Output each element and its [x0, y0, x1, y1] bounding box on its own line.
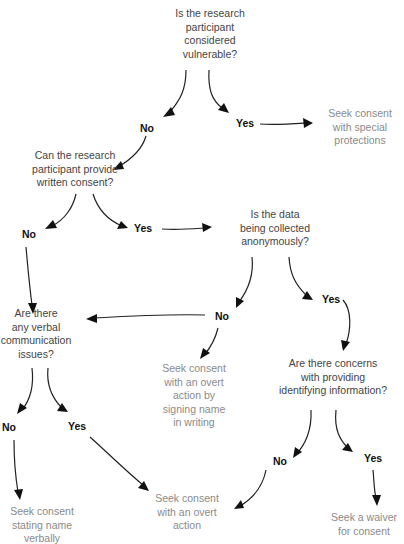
question-line: Is the data	[215, 208, 335, 222]
label-q5-yes: Yes	[364, 452, 382, 464]
outcome-line: Seek a waiver	[322, 511, 404, 525]
question-line: participant provide	[15, 163, 135, 177]
connector-arrows	[0, 0, 404, 544]
question-line: Are there	[0, 307, 72, 321]
outcome-line: signing name	[149, 403, 239, 417]
question-identifying-info: Are there concerns with providing identi…	[263, 357, 403, 398]
label-q3-yes: Yes	[322, 293, 340, 305]
label-q1-yes: Yes	[236, 117, 254, 129]
question-anonymous: Is the data being collected anonymously?	[215, 208, 335, 249]
label-q1-no: No	[140, 122, 154, 134]
question-line: Can the research	[15, 149, 135, 163]
outcome-waiver: Seek a waiver for consent	[322, 511, 404, 538]
question-line: with providing	[263, 371, 403, 385]
outcome-overt-action: Seek consent with an overt action	[145, 492, 229, 533]
question-line: being collected	[215, 222, 335, 236]
outcome-line: Seek consent	[0, 505, 84, 519]
question-written-consent: Can the research participant provide wri…	[15, 149, 135, 190]
label-q4-yes: Yes	[68, 420, 86, 432]
outcome-line: with an overt	[149, 376, 239, 390]
question-line: any verbal	[0, 321, 72, 335]
question-line: Are there concerns	[263, 357, 403, 371]
question-line: vulnerable?	[150, 48, 270, 62]
outcome-line: with an overt	[145, 506, 229, 520]
outcome-line: verbally	[0, 532, 84, 544]
outcome-stating-name-verbally: Seek consent stating name verbally	[0, 505, 84, 544]
question-line: considered	[150, 34, 270, 48]
label-q2-yes: Yes	[134, 222, 152, 234]
question-line: communication	[0, 334, 72, 348]
label-q3-no: No	[215, 310, 229, 322]
question-line: Is the research	[150, 7, 270, 21]
outcome-line: Seek consent	[145, 492, 229, 506]
outcome-line: Seek consent	[149, 362, 239, 376]
question-line: identifying information?	[263, 384, 403, 398]
outcome-special-protections: Seek consent with special protections	[315, 107, 404, 148]
outcome-line: action by	[149, 389, 239, 403]
outcome-line: with special	[315, 121, 404, 135]
outcome-line: for consent	[322, 525, 404, 539]
outcome-signing-name: Seek consent with an overt action by sig…	[149, 362, 239, 430]
question-verbal-issues: Are there any verbal communication issue…	[0, 307, 72, 361]
question-line: participant	[150, 21, 270, 35]
outcome-line: protections	[315, 134, 404, 148]
question-line: issues?	[0, 348, 72, 362]
label-q4-no: No	[2, 421, 16, 433]
question-line: written consent?	[15, 176, 135, 190]
outcome-line: in writing	[149, 416, 239, 430]
label-q2-no: No	[22, 228, 36, 240]
question-vulnerable: Is the research participant considered v…	[150, 7, 270, 61]
outcome-line: stating name	[0, 519, 84, 533]
question-line: anonymously?	[215, 235, 335, 249]
label-q5-no: No	[273, 455, 287, 467]
outcome-line: Seek consent	[315, 107, 404, 121]
outcome-line: action	[145, 519, 229, 533]
